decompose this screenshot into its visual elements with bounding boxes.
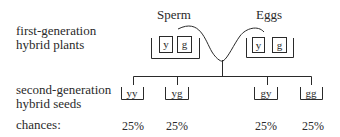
- seed-genotype-yy: yy: [117, 88, 147, 99]
- eggs-allele-g: g: [272, 40, 287, 51]
- chance-yy: 25%: [113, 120, 153, 132]
- chance-gy: 25%: [246, 120, 286, 132]
- seed-genotype-gy: gy: [251, 88, 281, 99]
- cross-diagram-lines: [0, 0, 340, 137]
- sperm-allele-g: g: [177, 39, 192, 50]
- chance-gg: 25%: [293, 120, 333, 132]
- seed-genotype-gg: gg: [296, 88, 326, 99]
- eggs-allele-y: y: [252, 40, 265, 51]
- seed-genotype-yg: yg: [162, 88, 192, 99]
- sperm-allele-y: y: [159, 39, 173, 50]
- chance-yg: 25%: [157, 120, 197, 132]
